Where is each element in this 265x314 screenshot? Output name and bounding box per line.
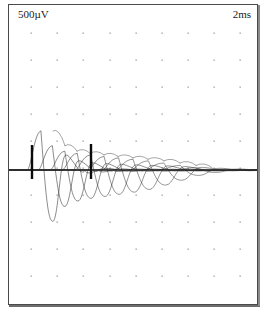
grid-dot <box>136 276 137 277</box>
grid-dot <box>240 33 241 34</box>
envelope-arc <box>77 150 90 154</box>
grid-dot <box>83 87 84 88</box>
grid-dot <box>83 114 84 115</box>
grid-dot <box>188 141 189 142</box>
grid-dot <box>83 222 84 223</box>
envelope-arc <box>148 158 164 161</box>
grid-dot <box>214 141 215 142</box>
grid-dot <box>188 87 189 88</box>
grid-dot <box>240 87 241 88</box>
envelope-arc <box>196 164 212 168</box>
grid-dot <box>240 276 241 277</box>
grid-dot <box>110 60 111 61</box>
grid-dot <box>162 249 163 250</box>
grid-dot <box>162 222 163 223</box>
emg-waveform-screenshot: 500µV 2ms <box>0 0 265 314</box>
grid-dot <box>110 141 111 142</box>
grid-dot <box>214 87 215 88</box>
envelope-arc <box>104 153 118 156</box>
grid-dot <box>83 276 84 277</box>
envelope-arc <box>65 145 77 152</box>
envelope-arc <box>118 155 133 158</box>
grid-dot <box>240 249 241 250</box>
grid-dot <box>83 249 84 250</box>
grid-dot <box>31 87 32 88</box>
grid-dot <box>214 114 215 115</box>
grid-dot <box>214 195 215 196</box>
grid-dot <box>31 141 32 142</box>
envelope-arc <box>53 130 65 146</box>
grid-dot <box>83 195 84 196</box>
grid-dot <box>57 87 58 88</box>
grid-dot <box>136 195 137 196</box>
waveform-trace <box>9 155 257 197</box>
grid-dot <box>31 60 32 61</box>
waveform-trace <box>9 131 257 221</box>
grid-dot <box>240 114 241 115</box>
waveform-trace <box>9 158 257 192</box>
grid-dot <box>110 87 111 88</box>
grid-dot <box>57 222 58 223</box>
grid-dot <box>162 114 163 115</box>
waveform-svg <box>9 5 257 304</box>
grid-dot <box>136 87 137 88</box>
grid-dot <box>31 222 32 223</box>
grid-dot <box>240 168 241 169</box>
grid-dot <box>136 141 137 142</box>
grid-dot <box>57 141 58 142</box>
grid-dot <box>162 87 163 88</box>
grid-dot <box>188 195 189 196</box>
grid-dot <box>83 60 84 61</box>
waveform-trace <box>9 146 257 207</box>
grid-dot <box>31 276 32 277</box>
waveform-trace <box>9 157 257 195</box>
grid-dot <box>188 249 189 250</box>
grid-dot <box>214 276 215 277</box>
grid-dot <box>136 249 137 250</box>
grid-dot <box>214 222 215 223</box>
grid-dot <box>188 60 189 61</box>
grid-dot <box>240 141 241 142</box>
grid-dot <box>31 114 32 115</box>
grid-dot <box>57 33 58 34</box>
waveform-traces <box>9 130 257 221</box>
grid-dot <box>162 60 163 61</box>
frame-shadow-bottom <box>9 305 260 307</box>
waveform-trace <box>9 163 257 180</box>
grid-dot <box>57 168 58 169</box>
grid-dot <box>162 195 163 196</box>
grid-dot <box>57 195 58 196</box>
grid-dot <box>214 249 215 250</box>
grid-dot <box>110 114 111 115</box>
grid-dot <box>110 276 111 277</box>
waveform-plot-area <box>9 5 257 304</box>
grid-dot <box>31 33 32 34</box>
grid-dot <box>57 249 58 250</box>
grid-dot <box>110 222 111 223</box>
envelope-arc <box>164 159 180 163</box>
grid-dot <box>240 195 241 196</box>
grid-dot <box>214 33 215 34</box>
grid-dot <box>83 141 84 142</box>
grid-dot <box>136 60 137 61</box>
grid-dot <box>110 195 111 196</box>
grid-dot <box>57 276 58 277</box>
waveform-trace <box>9 161 257 185</box>
grid-dot <box>162 276 163 277</box>
grid-dot <box>110 33 111 34</box>
grid-dots <box>31 33 241 277</box>
grid-dot <box>136 33 137 34</box>
grid-dot <box>188 33 189 34</box>
waveform-trace <box>9 159 257 189</box>
grid-dot <box>57 114 58 115</box>
grid-dot <box>136 114 137 115</box>
grid-dot <box>162 141 163 142</box>
grid-dot <box>214 60 215 61</box>
grid-dot <box>83 168 84 169</box>
grid-dot <box>31 249 32 250</box>
grid-dot <box>162 33 163 34</box>
grid-dot <box>31 195 32 196</box>
envelope-arc <box>133 156 148 159</box>
grid-dot <box>136 222 137 223</box>
grid-dot <box>240 222 241 223</box>
